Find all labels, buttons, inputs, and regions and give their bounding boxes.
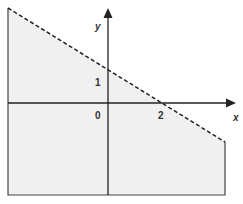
inequality-diagram: y x 0 2 1 xyxy=(0,0,243,204)
x-axis-label: x xyxy=(232,112,239,123)
y-axis-label: y xyxy=(94,21,101,32)
x-axis-arrow-icon xyxy=(226,99,236,108)
shaded-region xyxy=(8,8,225,195)
y-tick-label: 1 xyxy=(95,77,101,88)
x-tick-label: 2 xyxy=(158,110,164,121)
y-axis-arrow-icon xyxy=(104,8,113,18)
origin-label: 0 xyxy=(95,110,101,121)
